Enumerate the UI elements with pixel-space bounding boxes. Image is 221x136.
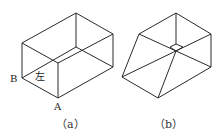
diagram-canvas: B A 左 （a） （b） [0, 0, 221, 136]
vertex-label-b: B [10, 73, 17, 84]
caption-a: （a） [56, 118, 85, 131]
caption-b: （b） [154, 118, 183, 131]
figure-b-solid [122, 13, 211, 98]
vertex-label-a: A [53, 101, 62, 112]
face-label-left: 左 [35, 70, 45, 82]
figure-a-box [22, 13, 113, 98]
